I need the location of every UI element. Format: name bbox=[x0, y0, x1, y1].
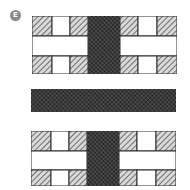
middle-dark-bar bbox=[31, 89, 176, 112]
top-grid-block bbox=[32, 16, 177, 74]
figure-label-badge: E bbox=[10, 10, 21, 21]
bottom-grid-block bbox=[31, 131, 176, 186]
